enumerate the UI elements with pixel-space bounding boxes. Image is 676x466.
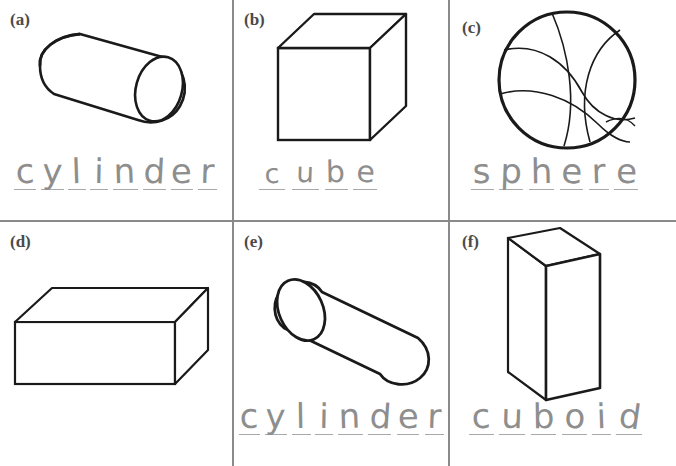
handwritten-letter: i [596,400,607,433]
shape-sphere-c [494,6,644,156]
handwritten-letter: u [296,160,315,187]
handwritten-letter: d [617,399,643,434]
panel-a: (a) c y l [0,0,232,220]
handwritten-letter: b [532,400,554,433]
handwritten-letter: y [265,400,286,433]
handwritten-letter: r [427,400,442,433]
panel-f-label: (f) [462,232,479,252]
handwritten-letter: p [500,155,523,188]
letter-cell: l [289,400,313,435]
panel-c: (c) s p h [450,0,676,220]
answer-word-f: c u b o i d [466,400,645,435]
letter-cell: e [611,155,641,190]
handwritten-letter: e [615,155,636,188]
panel-e-label: (e) [244,232,263,252]
letter-cell: p [496,155,526,190]
panel-d-label: (d) [10,232,31,252]
handwritten-letter: n [113,155,136,188]
letter-cell: y [38,155,66,190]
handwritten-letter: i [94,155,104,187]
shape-cylinder-a [18,18,208,133]
shape-cylinder-e [252,270,447,385]
letter-cell: e [557,155,586,190]
handwritten-letter: l [296,400,306,432]
shape-cube-b [270,8,410,148]
panel-b: (b) c u b [234,0,448,220]
handwritten-letter: e [397,400,418,433]
handwritten-letter: c [470,400,490,433]
handwritten-letter: c [14,155,34,188]
handwritten-letter: e [561,155,583,188]
letter-cell: e [168,155,195,190]
letter-cell: r [586,155,611,190]
handwritten-letter: r [591,155,606,188]
answer-word-a: c y l i n d e [12,155,219,190]
handwritten-letter: e [355,158,375,187]
letter-cell: d [140,155,168,190]
handwritten-letter: d [143,154,166,187]
letter-cell: s [468,155,496,190]
panel-d: (d) c u b [0,222,232,466]
letter-cell: l [66,155,88,190]
letter-cell: c [236,400,262,435]
panel-e: (e) c y l i [234,222,448,466]
letter-cell: d [365,400,394,435]
letter-cell: o [559,400,590,435]
handwritten-letter: e [171,155,192,188]
letter-cell: d [613,400,645,435]
handwritten-letter: c [263,160,279,186]
handwritten-letter: c [239,400,259,433]
panel-b-label: (b) [244,10,265,30]
handwritten-letter: b [326,158,346,187]
letter-cell: e [394,400,422,435]
answer-word-c: s p h e r e [468,155,641,190]
letter-cell: i [590,400,613,435]
letter-cell: r [422,400,446,435]
handwritten-letter: l [71,155,82,188]
handwritten-letter: r [200,155,215,188]
letter-cell: c [12,155,38,190]
handwritten-letter: h [530,155,552,188]
shape-cuboid-d [10,284,215,399]
handwritten-letter: o [564,399,586,432]
letter-cell: b [322,158,350,190]
letter-cell: u [496,400,528,435]
letter-cell: c [466,400,496,435]
panel-c-label: (c) [462,18,481,38]
letter-cell: e [350,158,380,190]
letter-cell: i [313,400,335,435]
handwritten-letter: d [368,399,392,433]
handwritten-letter: y [42,155,63,188]
letter-cell: c [256,161,288,190]
letter-cell: i [88,155,110,190]
letter-cell: y [262,400,289,435]
letter-cell: n [335,400,365,435]
letter-cell: n [110,155,140,190]
panel-f: (f) c u b [450,222,676,466]
shape-cuboid-f [504,224,629,404]
handwritten-letter: s [472,155,491,188]
answer-word-e: c y l i n d e [236,400,446,435]
handwritten-letter: n [338,400,361,433]
worksheet-sheet: (a) c y l [0,0,676,466]
letter-cell: b [528,400,559,435]
letter-cell: h [526,155,557,190]
letter-cell: u [288,160,322,190]
answer-word-b: c u b e [256,158,380,190]
handwritten-letter: i [319,400,329,432]
handwritten-letter: u [501,400,524,433]
letter-cell: r [195,155,219,190]
